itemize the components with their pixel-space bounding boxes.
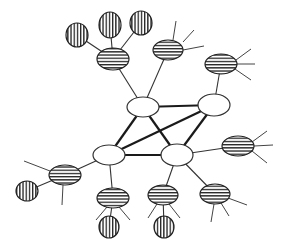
cluster-node-horizontal-striped: [222, 136, 254, 156]
spoke-line: [24, 161, 50, 171]
spoke-line: [119, 207, 130, 220]
spoke-line: [235, 69, 251, 80]
cluster-node-horizontal-striped: [205, 54, 237, 74]
spoke-line: [169, 204, 180, 218]
hub-node-B: [198, 94, 230, 116]
spoke-line: [62, 185, 63, 205]
cluster-nodes: [49, 40, 254, 208]
cluster-node-horizontal-striped: [148, 185, 178, 205]
core-edge: [109, 105, 214, 155]
network-diagram: [0, 0, 289, 247]
spoke-line: [173, 21, 176, 40]
spoke-line: [183, 46, 204, 50]
leaf-node-vertical-striped: [66, 23, 88, 47]
spoke-line: [211, 204, 214, 222]
spoke-line: [252, 151, 267, 163]
leaf-node-vertical-striped: [154, 216, 174, 238]
spoke-line: [183, 30, 194, 42]
spoke-line: [236, 49, 251, 60]
leaf-node-vertical-striped: [99, 216, 119, 238]
spoke-line: [221, 203, 229, 216]
cluster-node-horizontal-striped: [97, 188, 129, 208]
cluster-node-horizontal-striped: [153, 40, 183, 60]
leaf-node-vertical-striped: [130, 11, 152, 35]
hub-node-A: [127, 97, 159, 117]
core-edges: [109, 105, 214, 155]
leaf-node-vertical-striped: [99, 12, 121, 38]
spoke-line: [252, 131, 267, 142]
spoke-line: [228, 198, 247, 205]
leaf-nodes: [16, 11, 174, 238]
spoke-line: [148, 204, 157, 218]
hub-node-C: [93, 145, 125, 165]
cluster-node-horizontal-striped: [49, 165, 81, 185]
spoke-line: [254, 145, 273, 146]
leaf-node-vertical-striped: [16, 181, 38, 201]
cluster-node-horizontal-striped: [97, 48, 129, 70]
hub-node-D: [161, 144, 193, 166]
cluster-node-horizontal-striped: [200, 184, 230, 204]
